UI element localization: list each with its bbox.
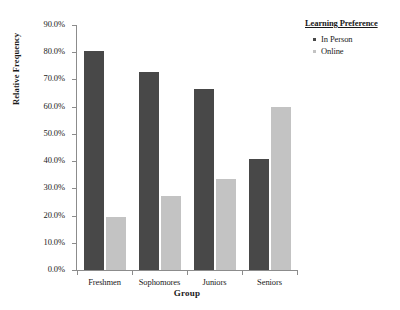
y-axis-tick-label: 60.0% [44, 101, 65, 111]
x-axis-label-seniors: Seniors [242, 277, 297, 288]
legend-item-label: Online [321, 46, 344, 57]
y-axis-tick-mark [72, 107, 76, 108]
y-axis-tick-mark [72, 134, 76, 135]
y-axis-tick-label: 0.0% [48, 264, 65, 274]
x-axis-label-juniors: Juniors [187, 277, 242, 288]
legend-item-online[interactable]: Online [313, 46, 400, 57]
y-axis-tick-mark [72, 216, 76, 217]
legend-item-in-person[interactable]: In Person [313, 34, 400, 45]
bar-seniors-in-person [249, 159, 269, 270]
legend-swatch-icon [313, 50, 316, 53]
x-axis-tick-mark [77, 271, 78, 275]
y-axis-tick-label: 80.0% [44, 46, 65, 56]
x-axis-tick-mark [132, 271, 133, 275]
y-axis-tick-mark [72, 52, 76, 53]
y-axis-tick-label: 30.0% [44, 182, 65, 192]
y-axis-tick-mark [72, 188, 76, 189]
y-axis-tick-label: 90.0% [44, 19, 65, 29]
legend-swatch-icon [313, 38, 316, 41]
y-axis-tick-label: 20.0% [44, 210, 65, 220]
bar-freshmen-in-person [84, 51, 104, 270]
y-axis-title: Relative Frequency [11, 91, 21, 105]
bar-freshmen-online [106, 217, 126, 270]
legend-item-label: In Person [321, 34, 352, 45]
y-axis-tick-mark [72, 270, 76, 271]
x-axis-tick-mark [187, 271, 188, 275]
legend-title: Learning Preference [305, 18, 400, 28]
x-axis-tick-mark [242, 271, 243, 275]
y-axis-tick-mark [72, 79, 76, 80]
x-axis-tick-mark [297, 271, 298, 275]
y-axis-tick-label: 50.0% [44, 128, 65, 138]
y-axis-tick-label: 70.0% [44, 73, 65, 83]
y-axis-tick-mark [72, 25, 76, 26]
x-axis-label-sophomores: Sophomores [132, 277, 187, 288]
x-axis-label-freshmen: Freshmen [77, 277, 132, 288]
y-axis-tick-mark [72, 161, 76, 162]
plot-area [77, 25, 297, 270]
legend: Learning Preference In PersonOnline [305, 18, 400, 58]
y-axis-tick-label: 10.0% [44, 237, 65, 247]
bar-chart-figure: 0.0%10.0%20.0%30.0%40.0%50.0%60.0%70.0%8… [0, 0, 400, 310]
bar-sophomores-in-person [139, 72, 159, 270]
legend-items: In PersonOnline [305, 34, 400, 57]
bar-juniors-in-person [194, 89, 214, 270]
bar-seniors-online [271, 107, 291, 270]
bar-sophomores-online [161, 196, 181, 270]
x-axis-title: Group [77, 288, 297, 298]
y-axis-tick-label: 40.0% [44, 155, 65, 165]
bar-juniors-online [216, 179, 236, 270]
y-axis-tick-mark [72, 243, 76, 244]
